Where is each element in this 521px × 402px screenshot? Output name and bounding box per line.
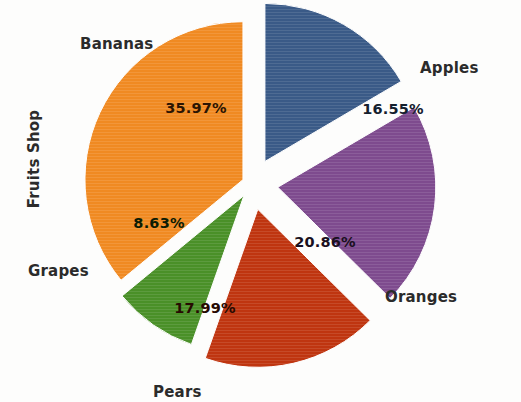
- pie-category-label-pears: Pears: [153, 383, 202, 401]
- pie-chart: 16.55%20.86%17.99%8.63%35.97% Fruits Sho…: [0, 0, 521, 402]
- pie-category-label-apples: Apples: [420, 59, 479, 77]
- pie-category-label-grapes: Grapes: [28, 262, 89, 280]
- pie-percent-pears: 17.99%: [174, 300, 236, 316]
- pie-percent-grapes: 8.63%: [133, 215, 185, 231]
- pie-category-label-oranges: Oranges: [385, 288, 457, 306]
- pie-percent-apples: 16.55%: [362, 101, 424, 117]
- pie-slice-group: [85, 3, 436, 367]
- pie-percent-oranges: 20.86%: [294, 234, 356, 250]
- axis-title-fruits-shop: Fruits Shop: [25, 99, 43, 219]
- pie-percent-bananas: 35.97%: [165, 100, 227, 116]
- pie-category-label-bananas: Bananas: [80, 35, 154, 53]
